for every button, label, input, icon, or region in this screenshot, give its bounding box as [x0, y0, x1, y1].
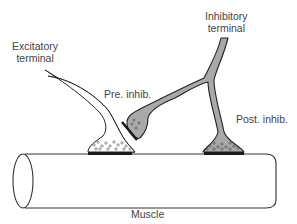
inhibitory-terminal-label: Inhibitory terminal: [205, 10, 248, 34]
post-inhib-label: Post. inhib.: [236, 113, 288, 125]
inhibitory-label-line2: terminal: [205, 22, 248, 34]
excitatory-label-line1: Excitatory: [12, 40, 58, 52]
muscle-fiber: [13, 154, 276, 208]
muscle-label: Muscle: [131, 208, 164, 220]
pre-inhib-label: Pre. inhib.: [104, 88, 151, 100]
excitatory-label-line2: terminal: [12, 52, 58, 64]
excitatory-terminal-label: Excitatory terminal: [12, 40, 58, 64]
excitatory-synapse-bar: [88, 152, 132, 155]
neuromuscular-synapse-diagram: [0, 0, 297, 224]
inhibitory-synapse-bar: [204, 152, 244, 155]
inhibitory-label-line1: Inhibitory: [205, 10, 248, 22]
excitatory-terminal: [45, 70, 135, 155]
